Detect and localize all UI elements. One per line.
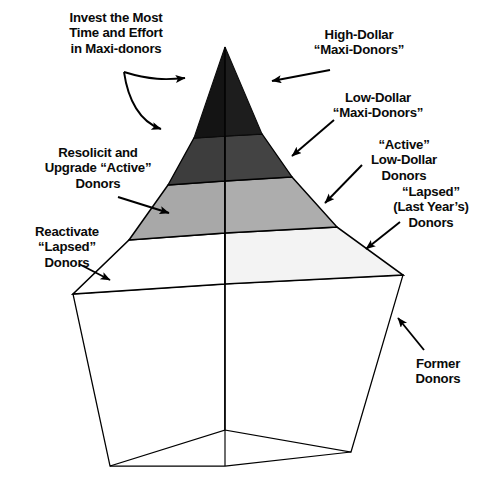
tier-5-left-face [73, 284, 225, 466]
label-low-dollar-maxi-donors: Low-Dollar “Maxi-Donors” [312, 90, 444, 121]
arrow-high-dollar [272, 70, 330, 81]
diagram-canvas: Invest the Most Time and Effort in Maxi-… [0, 0, 496, 482]
arrow-invest-lower [124, 72, 161, 129]
arrow-invest-upper [124, 72, 185, 79]
tier-2-right-face [225, 134, 292, 181]
label-lapsed-donors: “Lapsed” (Last Year’s) Donors [372, 184, 490, 230]
arrow-low-dollar [292, 120, 334, 156]
tier-1-left-face [194, 47, 225, 138]
arrow-former [398, 318, 424, 350]
tier-4-right-face [225, 227, 403, 284]
label-active-low-dollar-donors: “Active” Low-Dollar Donors [346, 137, 462, 183]
label-high-dollar-maxi-donors: High-Dollar “Maxi-Donors” [294, 27, 424, 58]
tier-3-right-face [225, 177, 337, 233]
label-former-donors: Former Donors [390, 356, 486, 387]
label-reactivate-lapsed-donors: Reactivate “Lapsed” Donors [12, 224, 122, 270]
label-invest-maxi-donors: Invest the Most Time and Effort in Maxi-… [36, 10, 196, 56]
tier-5-right-face [225, 275, 403, 452]
label-resolicit-active-donors: Resolicit and Upgrade “Active” Donors [14, 145, 182, 191]
tier-1-right-face [225, 47, 262, 136]
